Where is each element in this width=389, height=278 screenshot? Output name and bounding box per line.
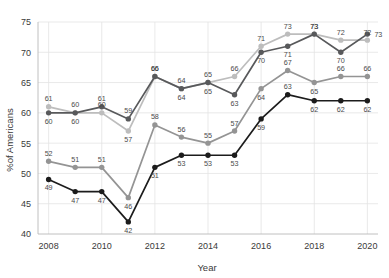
series-black-point-label: 63 (284, 82, 292, 91)
series-light-gray-point (338, 37, 343, 42)
series-medium-gray-point (179, 134, 184, 139)
series-dark-gray-point-label: 70 (257, 56, 265, 65)
series-dark-gray-point-label: 65 (204, 87, 212, 96)
series-dark-gray-point (338, 50, 343, 55)
gridlines (38, 22, 378, 234)
series-black-point (152, 165, 157, 170)
y-tick-label: 45 (21, 199, 31, 209)
series-medium-gray-point (46, 159, 51, 164)
series-black-point-label: 62 (337, 105, 345, 114)
x-tick-label: 2020 (357, 241, 377, 251)
series-black-point (126, 219, 131, 224)
series-black-point (99, 189, 104, 194)
series-light-gray-point (232, 74, 237, 79)
series-dark-gray-point-label: 73 (310, 22, 318, 31)
y-tick-label: 40 (21, 229, 31, 239)
series-medium-gray-point-label: 51 (71, 155, 79, 164)
data-point-labels: 6160605766646566717373727260606159666465… (45, 22, 383, 235)
series-black-point-label: 49 (45, 183, 53, 192)
series-dark-gray-point (312, 31, 317, 36)
series-black-point-label: 53 (177, 159, 185, 168)
x-axis-title: Year (197, 262, 216, 273)
series-light-gray-point-label: 73 (284, 22, 292, 31)
y-tick-label: 65 (21, 78, 31, 88)
y-tick-label: 60 (21, 108, 31, 118)
series-medium-gray-point-label: 66 (337, 64, 345, 73)
y-axis-tick-labels: 4045505560657075 (21, 17, 31, 239)
series-medium-gray-point (72, 165, 77, 170)
series-light-gray-point (258, 44, 263, 49)
series-black-point (365, 98, 370, 103)
series-black-point (232, 153, 237, 158)
x-tick-label: 2018 (304, 241, 324, 251)
series-dark-gray-point-label: 59 (124, 106, 132, 115)
line-chart: 4045505560657075 20082010201220142016201… (0, 0, 389, 278)
series-dark-gray-point (46, 110, 51, 115)
series-medium-gray-point (338, 74, 343, 79)
series-black-point (46, 177, 51, 182)
series-black-point (258, 116, 263, 121)
series-medium-gray-point (312, 80, 317, 85)
series-dark-gray-point (179, 86, 184, 91)
series-medium-gray-point (232, 128, 237, 133)
series-black-point-label: 51 (151, 171, 159, 180)
series-light-gray-point-label: 64 (177, 76, 185, 85)
series-medium-gray-point-label: 64 (257, 93, 265, 102)
series-light-gray-point (285, 31, 290, 36)
series-medium-gray-point (152, 122, 157, 127)
series-medium-gray-point-label: 66 (363, 64, 371, 73)
series-dark-gray-point-label: 73 (374, 30, 382, 39)
series-light-gray-point-label: 57 (124, 135, 132, 144)
series-light-gray-point (126, 128, 131, 133)
series-black-point-label: 62 (363, 105, 371, 114)
series-black-point-label: 47 (98, 196, 106, 205)
series-light-gray-point-label: 71 (257, 34, 265, 43)
series-black-point (72, 189, 77, 194)
series-light-gray-point-label: 61 (45, 94, 53, 103)
series-black-point (338, 98, 343, 103)
series-medium-gray-point (285, 68, 290, 73)
series-black-point-label: 47 (71, 196, 79, 205)
series-dark-gray-point (72, 110, 77, 115)
series-medium-gray-point-label: 58 (151, 112, 159, 121)
series-medium-gray-point (126, 195, 131, 200)
series-medium-gray-point-label: 55 (204, 131, 212, 140)
series-dark-gray-point (126, 116, 131, 121)
series-medium-gray-point (258, 86, 263, 91)
series-black-point-label: 53 (204, 159, 212, 168)
series-medium-gray-point-label: 56 (177, 125, 185, 134)
x-tick-label: 2012 (145, 241, 165, 251)
series-dark-gray-point (258, 50, 263, 55)
series-dark-gray-point (152, 74, 157, 79)
series-black-point-label: 59 (257, 123, 265, 132)
series-dark-gray-point-label: 63 (231, 99, 239, 108)
series-light-gray-point-label: 72 (337, 28, 345, 37)
series-black-point-label: 42 (124, 226, 132, 235)
series-light-gray-point (365, 37, 370, 42)
series-dark-gray-point-label: 60 (71, 117, 79, 126)
y-tick-label: 55 (21, 139, 31, 149)
series-light-gray-point-label: 65 (204, 70, 212, 79)
chart-canvas: 4045505560657075 20082010201220142016201… (0, 0, 389, 278)
series-light-gray-point-label: 72 (363, 28, 371, 37)
series-dark-gray-point-label: 64 (177, 93, 185, 102)
x-tick-label: 2014 (198, 241, 218, 251)
series-black-point (205, 153, 210, 158)
series-medium-gray-point-label: 67 (284, 58, 292, 67)
series-medium-gray-point (99, 165, 104, 170)
x-tick-label: 2016 (251, 241, 271, 251)
series-light-gray-point-label: 60 (71, 100, 79, 109)
series-medium-gray-point-label: 51 (98, 155, 106, 164)
series-light-gray-point (46, 104, 51, 109)
series-dark-gray-point (205, 80, 210, 85)
series-light-gray-point (99, 110, 104, 115)
y-axis-title: %of Americans (4, 108, 15, 172)
series-dark-gray-point-label: 60 (45, 117, 53, 126)
series-medium-gray-point (205, 140, 210, 145)
y-tick-label: 70 (21, 48, 31, 58)
series-medium-gray-point-label: 46 (124, 202, 132, 211)
series-medium-gray-point-label: 57 (231, 119, 239, 128)
series-medium-gray-point (365, 74, 370, 79)
series-medium-gray-point-label: 65 (310, 87, 318, 96)
series-dark-gray-point-label: 61 (98, 94, 106, 103)
